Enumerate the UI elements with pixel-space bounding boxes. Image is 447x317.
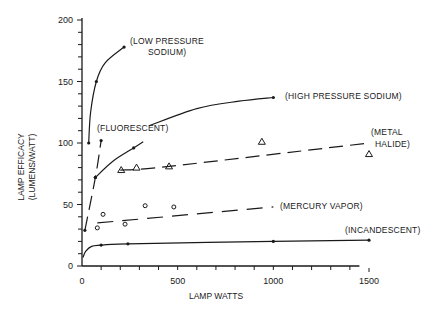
y-tick-label: 100 (58, 138, 73, 148)
x-axis-title: LAMP WATTS (189, 291, 243, 301)
dot-marker (94, 176, 97, 179)
x-tick-label: 500 (170, 276, 185, 286)
series-label: (INCANDESCENT) (345, 225, 421, 235)
dot-marker (100, 139, 103, 142)
series-label: (MERCURY VAPOR) (280, 201, 363, 211)
dot-marker (272, 240, 275, 243)
series-layer (83, 45, 373, 257)
dot-marker (83, 229, 86, 232)
triangle-marker (258, 138, 265, 144)
dot-marker (367, 239, 370, 242)
series-label: (LOW PRESSURE (130, 36, 204, 46)
series-metal-halide (118, 138, 373, 172)
y-tick-label: 0 (68, 261, 73, 271)
x-tick-label: 1500 (359, 276, 379, 286)
triangle-marker (366, 151, 373, 157)
dot-marker (122, 45, 125, 48)
circle-marker (143, 204, 147, 208)
series-label: SODIUM) (148, 47, 186, 57)
series-label: HALIDE) (375, 139, 410, 149)
y-tick-label: 50 (63, 200, 73, 210)
series-labels: (LOW PRESSURESODIUM)(HIGH PRESSURE SODIU… (97, 36, 421, 235)
y-axis-title-line2: (LUMENS/WATT) (27, 134, 37, 201)
dot-marker (95, 80, 98, 83)
series-incandescent (83, 239, 371, 258)
series-fluorescent (83, 139, 102, 232)
lamp-efficacy-chart: 050100150200 050010001500 LAMP EFFICACY … (0, 0, 447, 317)
x-tick-label: 1000 (263, 276, 283, 286)
y-axis-title-line1: LAMP EFFICACY (16, 133, 26, 201)
dot-marker (132, 146, 135, 149)
x-axis: 050010001500 (79, 266, 379, 286)
circle-marker (95, 226, 99, 230)
y-tick-label: 200 (58, 15, 73, 25)
x-tick-label: 0 (79, 276, 84, 286)
y-tick-label: 150 (58, 77, 73, 87)
dot-marker (126, 242, 129, 245)
circle-marker (123, 222, 127, 226)
circle-marker (101, 212, 105, 216)
series-label: (FLUORESCENT) (97, 123, 169, 133)
y-axis: 050100150200 (58, 15, 82, 271)
series-label: (METAL (371, 127, 403, 137)
triangle-marker (133, 164, 140, 170)
circle-marker (172, 205, 176, 209)
dot-marker (87, 141, 90, 144)
dot-marker (100, 243, 103, 246)
series-label: (HIGH PRESSURE SODIUM) (285, 91, 402, 101)
series-mercury-vapor (95, 204, 273, 230)
dot-marker (272, 96, 275, 99)
